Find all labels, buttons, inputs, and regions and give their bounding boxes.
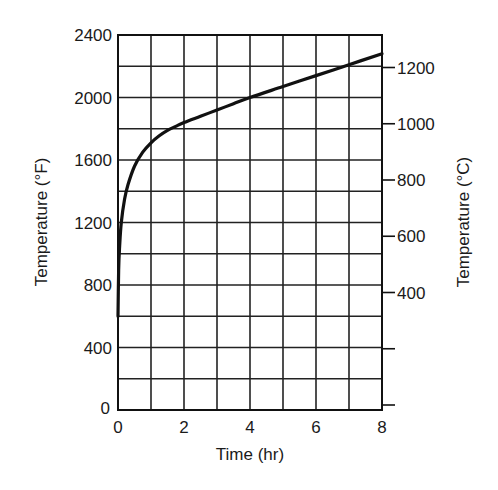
y-tick-label: 1600 bbox=[74, 151, 112, 170]
y2-tick-label: 800 bbox=[397, 171, 425, 190]
y-tick-label: 0 bbox=[101, 399, 110, 418]
y-axis-title-left: Temperature (°F) bbox=[32, 158, 51, 287]
y2-tick-label: 600 bbox=[397, 227, 425, 246]
y2-tick-label: 400 bbox=[397, 284, 425, 303]
y-axis-right: 12001000800600400 bbox=[382, 59, 435, 406]
y2-tick-label: 1200 bbox=[397, 59, 435, 78]
temperature-time-chart: 04008001200160020002400 1200100080060040… bbox=[0, 0, 498, 490]
x-tick-label: 6 bbox=[311, 418, 320, 437]
x-tick-label: 8 bbox=[377, 418, 386, 437]
y-axis-left: 04008001200160020002400 bbox=[74, 26, 112, 418]
y-tick-label: 1200 bbox=[74, 214, 112, 233]
x-tick-label: 2 bbox=[179, 418, 188, 437]
y-tick-label: 2400 bbox=[74, 26, 112, 45]
plot-grid bbox=[118, 35, 382, 410]
y-tick-label: 2000 bbox=[74, 89, 112, 108]
y-tick-label: 800 bbox=[84, 276, 112, 295]
y-tick-label: 400 bbox=[84, 339, 112, 358]
x-tick-label: 0 bbox=[113, 418, 122, 437]
y-axis-title-right: Temperature (°C) bbox=[454, 157, 473, 288]
x-axis-title: Time (hr) bbox=[216, 445, 284, 464]
y2-tick-label: 1000 bbox=[397, 115, 435, 134]
x-axis: 02468 bbox=[113, 418, 386, 437]
x-tick-label: 4 bbox=[245, 418, 254, 437]
